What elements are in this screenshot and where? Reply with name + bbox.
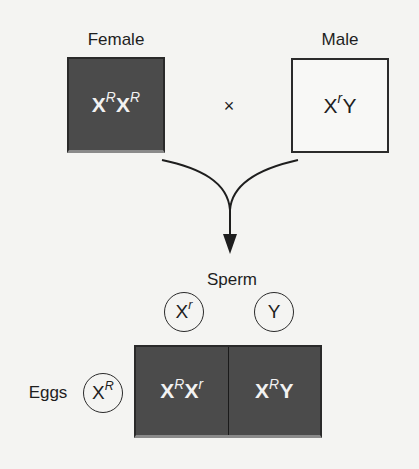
allele-superscript: R — [105, 379, 114, 393]
sperm-gamete-xr: Xr — [164, 292, 204, 332]
allele-base: Y — [279, 379, 293, 402]
sperm-label: Sperm — [207, 270, 257, 290]
allele-base: X — [160, 379, 174, 402]
allele-superscript: r — [198, 376, 203, 392]
allele-base: Y — [268, 301, 281, 322]
allele-superscript: r — [188, 298, 192, 312]
offspring-punnett-row: XRXr XRY — [134, 345, 322, 438]
allele-base: X — [255, 379, 269, 402]
eggs-label: Eggs — [29, 383, 68, 403]
allele-base: X — [184, 379, 198, 402]
sperm-gamete-y: Y — [254, 292, 294, 332]
allele-base: X — [92, 382, 105, 403]
allele-superscript: R — [174, 376, 184, 392]
allele-superscript: R — [269, 376, 279, 392]
offspring-cell-female: XRXr — [136, 347, 228, 435]
allele-base: X — [175, 301, 188, 322]
egg-gamete-xR: XR — [83, 373, 123, 413]
offspring-cell-male: XRY — [228, 347, 321, 435]
